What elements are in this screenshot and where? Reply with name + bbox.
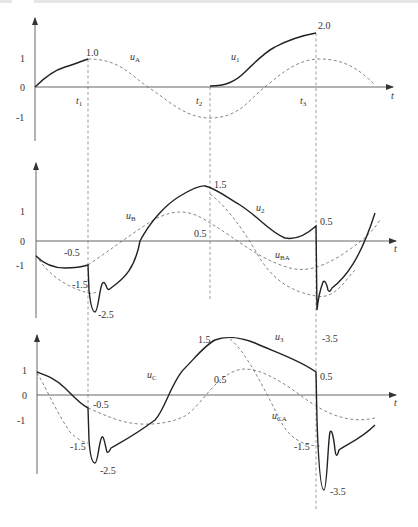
bottom-tick-1: 1: [22, 365, 27, 376]
uca-dashed-curve: [37, 339, 320, 446]
uc-label: uC: [147, 369, 157, 382]
t3-label: t3: [300, 95, 307, 108]
top-value-1.0: 1.0: [86, 47, 99, 58]
u2-label: u2: [256, 202, 265, 215]
middle-value-0.5-right: 0.5: [320, 216, 333, 227]
bottom-value-minus0.5: -0.5: [93, 399, 109, 410]
t2-label: t2: [196, 95, 203, 108]
waveform-diagram: 1 0 -1 t 1.0 2.0 uA u1 t1 t2 t3 1 0 -1 t…: [0, 0, 418, 527]
middle-value-0.5-left: 0.5: [194, 228, 207, 239]
top-value-2.0: 2.0: [318, 20, 331, 31]
u1-solid-curve-a: [35, 59, 88, 87]
top-tick-1: 1: [20, 53, 25, 64]
middle-tick-minus1: -1: [16, 260, 24, 271]
middle-tick-0: 0: [20, 236, 25, 247]
top-tick-0: 0: [20, 82, 25, 93]
bottom-value-minus3.5: -3.5: [330, 486, 346, 497]
bottom-value-0.5-right: 0.5: [320, 371, 333, 382]
bottom-t-label: t: [394, 397, 397, 408]
bottom-tick-minus1: -1: [17, 415, 25, 426]
middle-value-minus1.5: -1.5: [72, 279, 88, 290]
middle-value-minus2.5: -2.5: [98, 309, 114, 320]
top-t-label: t: [391, 90, 394, 101]
ua-dashed-curve: [88, 59, 375, 118]
middle-value-minus3.5: -3.5: [322, 333, 338, 344]
bottom-tick-0: 0: [22, 390, 27, 401]
u1-label: u1: [231, 51, 240, 64]
panel-middle: 1 0 -1 t -0.5 -1.5 -2.5 1.5 0.5 0.5 uB u…: [16, 163, 397, 320]
u2-solid-curve: [36, 186, 375, 312]
t1-label: t1: [76, 95, 83, 108]
panel-top: 1 0 -1 t 1.0 2.0 uA u1 t1 t2 t3: [16, 18, 394, 141]
uca-label: uCA: [272, 410, 287, 423]
u1-solid-curve-b: [210, 33, 316, 86]
middle-tick-1: 1: [20, 206, 25, 217]
top-tick-minus1: -1: [16, 112, 24, 123]
middle-t-label: t: [394, 243, 397, 254]
bottom-value-minus1.5-right: -1.5: [294, 441, 310, 452]
middle-value-1.5: 1.5: [214, 179, 227, 190]
bottom-value-1.5: 1.5: [198, 334, 211, 345]
panel-bottom: 1 0 -1 t -0.5 -1.5 -2.5 1.5 0.5 0.5 -1.5…: [17, 331, 397, 497]
u3-label: u3: [275, 331, 284, 344]
bottom-value-minus1.5: -1.5: [70, 441, 86, 452]
bottom-value-minus2.5: -2.5: [100, 465, 116, 476]
ua-label: uA: [130, 51, 140, 64]
bottom-value-0.5-left: 0.5: [214, 374, 227, 385]
ub-label: uB: [126, 210, 136, 223]
middle-value-minus0.5: -0.5: [64, 247, 80, 258]
u3-solid-curve: [37, 338, 375, 490]
uba-label: uBA: [275, 249, 290, 262]
